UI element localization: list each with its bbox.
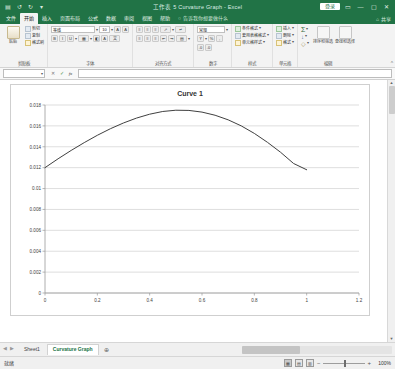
name-box[interactable]: ▾ [3,69,45,78]
view-normal-button[interactable]: ▦ [284,359,292,367]
sheet-tab-sheet1[interactable]: Sheet1 [19,345,45,354]
align-left-button[interactable]: ≡ [136,35,143,42]
underline-chevron-down-icon[interactable]: ▾ [75,37,77,41]
confirm-formula-icon[interactable]: ✓ [58,71,65,76]
ribbon-display-options-icon[interactable]: ▭ [342,1,353,12]
currency-button[interactable]: ¥ [197,35,204,42]
sheet-nav-prev-icon[interactable]: ◀ [3,347,7,352]
conditional-formatting-button[interactable]: 条件格式 ▾ [235,26,269,32]
tab-formulas[interactable]: 公式 [84,13,102,24]
scroll-up-icon[interactable]: ▲ [390,81,394,85]
tab-help[interactable]: 帮助 [156,13,174,24]
align-middle-button[interactable]: ≡ [144,26,151,33]
bold-button[interactable]: B [51,35,58,42]
number-format-chevron-down-icon[interactable]: ▾ [226,28,228,32]
tab-view[interactable]: 视图 [138,13,156,24]
increase-font-size-button[interactable]: A [114,26,121,33]
save-icon[interactable]: ▤ [4,3,12,11]
insert-function-icon[interactable]: fx [67,71,74,76]
borders-chevron-down-icon[interactable]: ▾ [90,37,92,41]
find-select-button[interactable]: 查找和选择 [335,26,355,44]
copy-button[interactable]: 复制 [25,33,44,39]
wrap-text-button[interactable]: ↵ [175,26,186,33]
maximize-icon[interactable]: ▢ [368,1,379,12]
sort-filter-button[interactable]: 排序和筛选 [313,26,333,44]
close-icon[interactable]: ✕ [381,1,392,12]
italic-button[interactable]: I [59,35,66,42]
orientation-chevron-down-icon[interactable]: ▾ [172,28,174,32]
redo-icon[interactable]: ↻ [26,3,34,11]
align-right-button[interactable]: ≡ [152,35,159,42]
cancel-formula-icon[interactable]: ✕ [49,71,56,76]
clear-button[interactable]: ◇ ▾ [301,41,309,47]
tab-page-layout[interactable]: 页面布局 [56,13,84,24]
font-size-chevron-down-icon[interactable]: ▾ [111,28,113,32]
align-center-button[interactable]: ≡ [144,35,151,42]
borders-button[interactable]: ▦ [78,35,89,42]
autosum-button[interactable]: Σ ▾ [301,26,309,33]
tab-insert[interactable]: 插入 [38,13,56,24]
merge-chevron-down-icon[interactable]: ▾ [188,37,190,41]
paste-button[interactable]: 粘贴 [3,26,23,44]
tab-file[interactable]: 文件 [2,13,20,24]
formula-input[interactable] [78,69,392,78]
zoom-knob[interactable] [344,360,346,367]
format-painter-button[interactable]: 格式刷 [25,40,44,46]
cut-button[interactable]: 剪切 [25,26,44,32]
tell-me-search[interactable]: ○ 告诉我你想要做什么 [174,13,232,24]
fill-color-button[interactable]: ◧ [93,35,100,42]
font-name-input[interactable]: 等线 [51,26,95,33]
number-format-select[interactable]: 常规 [197,26,225,33]
horizontal-scroll-thumb[interactable] [242,346,300,354]
decrease-font-size-button[interactable]: A [122,26,129,33]
format-cells-button[interactable]: 格式 ▾ [276,40,294,46]
customize-quick-access-icon[interactable]: ▾ [37,3,45,11]
percent-style-button[interactable]: % [208,35,215,42]
fill-button[interactable]: ↓ ▾ [301,34,309,40]
font-name-chevron-down-icon[interactable]: ▾ [96,28,98,32]
vertical-scroll-thumb[interactable] [389,86,395,114]
increase-decimal-button[interactable]: .0 [197,44,204,51]
zoom-slider[interactable]: − + [317,360,371,366]
tab-home[interactable]: 开始 [20,13,38,24]
underline-button[interactable]: U [67,35,74,42]
undo-icon[interactable]: ↺ [15,3,23,11]
zoom-level-label[interactable]: 100% [374,361,391,366]
view-page-layout-button[interactable]: ▤ [295,359,303,367]
zoom-out-icon[interactable]: − [317,360,321,366]
increase-indent-button[interactable]: ⇥ [168,35,175,42]
align-top-button[interactable]: ≡ [136,26,143,33]
decrease-decimal-button[interactable]: .0 [205,44,212,51]
orientation-button[interactable]: ⇗ [160,26,171,33]
horizontal-scrollbar[interactable] [242,346,392,354]
zoom-track[interactable] [323,363,366,364]
currency-chevron-down-icon[interactable]: ▾ [205,37,207,41]
sign-in-button[interactable]: 登录 [320,3,340,10]
merge-center-button[interactable]: ▤ [176,35,187,42]
view-page-break-button[interactable]: ▥ [306,359,314,367]
name-box-chevron-down-icon[interactable]: ▾ [41,72,44,76]
delete-cells-button[interactable]: 删除 ▾ [276,33,294,39]
decrease-indent-button[interactable]: ⇤ [160,35,167,42]
comma-style-button[interactable]: , [216,35,223,42]
sheet-nav-next-icon[interactable]: ▶ [10,347,14,352]
align-bottom-button[interactable]: ≡ [152,26,159,33]
cell-styles-button[interactable]: 单元格样式 ▾ [235,40,269,46]
insert-cells-button[interactable]: 插入 ▾ [276,26,294,32]
worksheet-canvas[interactable]: Curve 1 00.0020.0040.0060.0080.010.0120.… [0,80,387,342]
phonetic-guide-button[interactable]: 文 [109,35,120,42]
chart-object[interactable]: Curve 1 00.0020.0040.0060.0080.010.0120.… [10,84,370,316]
sheet-tab-curvature-graph[interactable]: Curvature Graph [47,344,99,355]
share-button[interactable]: ⌂ 共享 [376,13,395,24]
font-color-button[interactable]: A [101,35,108,42]
font-size-input[interactable]: 10 [99,26,110,33]
scroll-down-icon[interactable]: ▼ [390,337,394,341]
minimize-icon[interactable]: ― [355,1,366,12]
format-as-table-button[interactable]: 套用表格格式 ▾ [235,33,269,39]
collapse-ribbon-icon[interactable]: ^ [391,60,393,66]
zoom-in-icon[interactable]: + [367,360,371,366]
add-sheet-icon[interactable]: ⊕ [101,347,112,353]
tab-data[interactable]: 数据 [102,13,120,24]
tab-review[interactable]: 审阅 [120,13,138,24]
vertical-scrollbar[interactable]: ▲ ▼ [387,80,395,342]
